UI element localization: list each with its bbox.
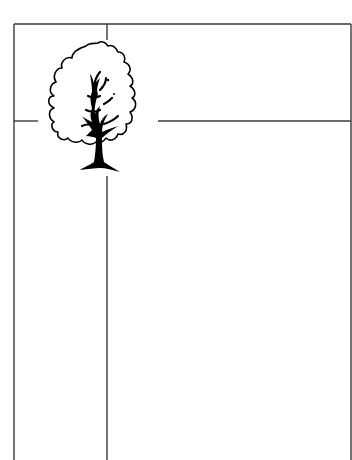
tree-icon [38,38,160,178]
